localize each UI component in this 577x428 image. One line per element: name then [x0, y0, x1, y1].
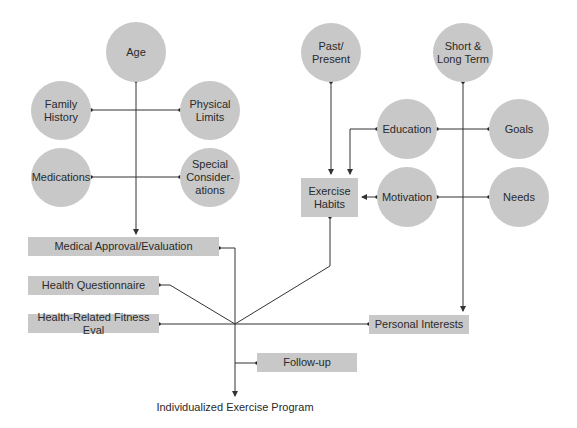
node-special-considerations: Special Consider- ations: [180, 148, 240, 207]
bar-health-questionnaire-label: Health Questionnaire: [42, 279, 145, 292]
node-family-history-label: Family History: [44, 98, 78, 124]
node-past-present-label: Past/ Present: [312, 40, 350, 66]
node-short-long-term: Short & Long Term: [433, 23, 493, 82]
bar-follow-up-label: Follow-up: [283, 356, 331, 369]
node-medications: Medications: [31, 148, 91, 207]
node-needs-label: Needs: [503, 191, 535, 204]
node-past-present: Past/ Present: [301, 23, 361, 82]
node-age-label: Age: [126, 46, 146, 59]
node-motivation: Motivation: [377, 167, 437, 227]
bar-health-fitness-eval: Health-Related Fitness Eval: [28, 314, 159, 333]
node-goals: Goals: [489, 99, 549, 159]
bar-health-questionnaire: Health Questionnaire: [28, 276, 159, 295]
node-education-label: Education: [383, 123, 432, 136]
bar-medical-approval: Medical Approval/Evaluation: [28, 237, 219, 256]
bar-medical-approval-label: Medical Approval/Evaluation: [54, 240, 192, 253]
node-exercise-habits: Exercise Habits: [301, 178, 358, 217]
node-special-considerations-label: Special Consider- ations: [186, 158, 234, 197]
bar-health-fitness-eval-label: Health-Related Fitness Eval: [28, 311, 159, 337]
node-exercise-habits-label: Exercise Habits: [308, 185, 350, 211]
node-age: Age: [106, 22, 166, 82]
node-goals-label: Goals: [505, 123, 534, 136]
node-short-long-term-label: Short & Long Term: [437, 40, 489, 66]
bar-personal-interests: Personal Interests: [369, 315, 469, 334]
bar-follow-up: Follow-up: [257, 353, 357, 372]
node-needs: Needs: [489, 167, 549, 227]
node-physical-limits: Physical Limits: [180, 81, 240, 140]
bar-personal-interests-label: Personal Interests: [375, 318, 464, 331]
node-medications-label: Medications: [32, 171, 91, 184]
output-label: Individualized Exercise Program: [135, 401, 335, 413]
node-physical-limits-label: Physical Limits: [190, 98, 231, 124]
node-motivation-label: Motivation: [382, 191, 432, 204]
node-education: Education: [377, 99, 437, 159]
node-family-history: Family History: [31, 81, 91, 140]
